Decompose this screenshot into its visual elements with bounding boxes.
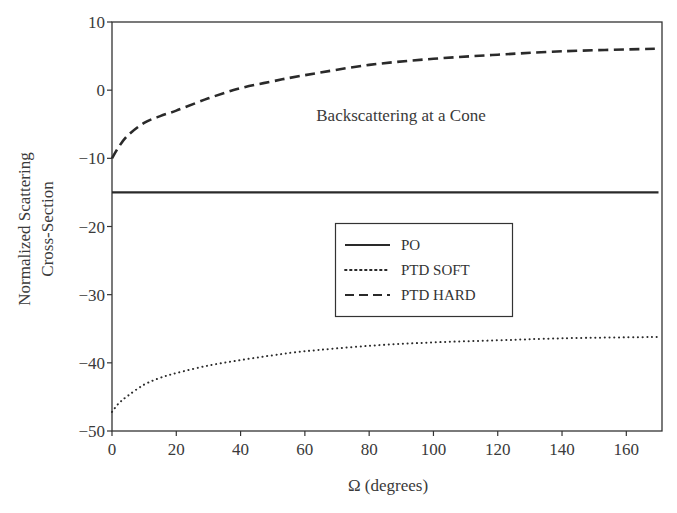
y-tick-label: −10 [78, 149, 105, 168]
y-tick-label: 0 [97, 81, 106, 100]
x-tick-label: 40 [232, 440, 249, 459]
y-tick-label: −40 [78, 354, 105, 373]
x-tick-label: 120 [485, 440, 511, 459]
y-axis-label: Normalized Scattering Cross-Section [15, 152, 57, 306]
x-tick-label: 20 [168, 440, 185, 459]
chart-title: Backscattering at a Cone [316, 106, 485, 125]
y-tick-label: −50 [78, 422, 105, 441]
y-tick-label: 10 [88, 13, 105, 32]
legend-label: PO [401, 237, 420, 253]
legend-label: PTD HARD [401, 287, 476, 303]
x-tick-label: 140 [549, 440, 575, 459]
x-tick-label: 100 [421, 440, 447, 459]
y-tick-label: −30 [78, 286, 105, 305]
x-axis-label: Ω (degrees) [348, 476, 428, 495]
x-axis-ticks: 020406080100120140160 [108, 431, 639, 459]
y-tick-label: −20 [78, 218, 105, 237]
x-tick-label: 60 [296, 440, 313, 459]
chart: 020406080100120140160 100−10−20−30−40−50… [0, 0, 677, 513]
x-tick-label: 80 [361, 440, 378, 459]
y-axis-label-line-1: Normalized Scattering [15, 152, 34, 306]
y-axis-ticks: 100−10−20−30−40−50 [78, 13, 112, 441]
legend: PO PTD SOFT PTD HARD [336, 224, 513, 317]
series-ptd-hard-line [112, 49, 659, 159]
y-axis-label-line-2: Cross-Section [38, 181, 57, 277]
x-tick-label: 160 [614, 440, 640, 459]
series-ptd-soft-line [112, 337, 659, 412]
legend-label: PTD SOFT [401, 262, 470, 278]
x-tick-label: 0 [108, 440, 117, 459]
